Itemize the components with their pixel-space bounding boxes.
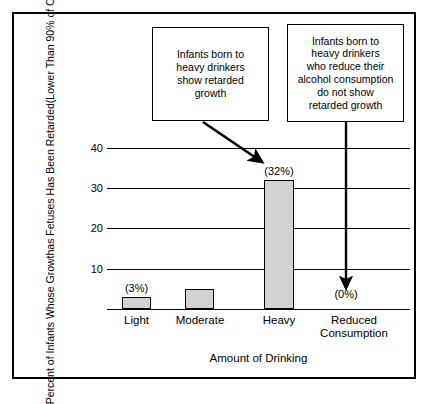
y-tick-label-20: 20 [75, 223, 103, 234]
reduced-callout-line-4: alcohol consumption [298, 73, 394, 86]
growth-callout-line-3: show retarded [177, 74, 244, 87]
reduced-callout: Infants born to heavy drinkers who reduc… [287, 24, 404, 122]
x-category-label-light-line-1: Light [107, 314, 166, 327]
x-axis-title: Amount of Drinking [107, 352, 410, 364]
y-tick-label-40: 40 [75, 143, 103, 154]
x-category-label-heavy-line-1: Heavy [246, 314, 312, 327]
bar-moderate [185, 289, 214, 309]
x-category-label-light: Light [107, 314, 166, 327]
reduced-callout-line-3: who reduce their [307, 60, 385, 73]
x-category-label-moderate: Moderate [166, 314, 234, 327]
reduced-callout-line-1: Infants born to [312, 35, 379, 48]
x-category-label-heavy: Heavy [246, 314, 312, 327]
gridline-20 [107, 228, 410, 229]
y-axis-title-line-1: Percent of Infants Whose Growth [44, 250, 57, 404]
reduced-callout-line-2: heavy drinkers [311, 47, 379, 60]
x-category-label-moderate-line-1: Moderate [166, 314, 234, 327]
value-label-heavy: (32%) [249, 166, 309, 177]
y-tick-label-10: 10 [75, 264, 103, 275]
x-axis-baseline [107, 309, 410, 310]
x-category-label-reduced-consumption: Reduced Consumption [312, 314, 396, 340]
y-tick-label-30: 30 [75, 183, 103, 194]
growth-callout: Infants born to heavy drinkers show reta… [152, 27, 269, 121]
bar-light [122, 297, 151, 309]
gridline-30 [107, 188, 410, 189]
bar-heavy [264, 180, 294, 309]
y-axis-ticks: 40 30 20 10 [73, 0, 103, 392]
x-category-label-reduced-line-2: Consumption [312, 327, 396, 340]
reduced-callout-line-6: retarded growth [309, 99, 383, 112]
gridline-40 [107, 148, 410, 149]
y-axis-title-line-3: (Lower Than 90% of Other Infants) [44, 0, 57, 103]
growth-callout-line-4: growth [195, 87, 227, 100]
y-axis-title-line-2: as Fetuses Has Been Retarded [44, 103, 57, 250]
growth-callout-line-2: heavy drinkers [176, 61, 244, 74]
growth-callout-line-1: Infants born to [177, 48, 244, 61]
reduced-callout-line-5: do not show [317, 86, 374, 99]
gridline-10 [107, 269, 410, 270]
y-axis-title: Percent of Infants Whose Growth as Fetus… [27, 83, 73, 263]
x-category-label-reduced-line-1: Reduced [312, 314, 396, 327]
value-label-reduced: (0%) [316, 289, 376, 300]
value-label-light: (3%) [107, 283, 166, 294]
